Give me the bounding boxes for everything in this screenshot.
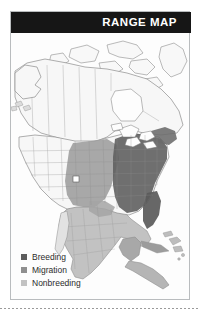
- map-legend: Breeding Migration Nonbreeding: [21, 251, 81, 290]
- legend-item-breeding[interactable]: Breeding: [21, 251, 81, 263]
- map-reference-marker: [73, 176, 79, 182]
- range-map-image[interactable]: Breeding Migration Nonbreeding: [11, 33, 189, 299]
- legend-label-migration: Migration: [32, 264, 67, 276]
- bottom-divider: [0, 308, 199, 309]
- range-map-card: RANGE MAP: [10, 11, 190, 300]
- legend-item-nonbreeding[interactable]: Nonbreeding: [21, 277, 81, 289]
- legend-item-migration[interactable]: Migration: [21, 264, 81, 276]
- legend-swatch-nonbreeding: [21, 280, 27, 286]
- legend-swatch-migration: [21, 267, 27, 273]
- legend-label-breeding: Breeding: [32, 251, 66, 263]
- page-title: RANGE MAP: [102, 12, 177, 33]
- region-alaska: [15, 65, 41, 99]
- legend-swatch-breeding: [21, 254, 27, 260]
- legend-label-nonbreeding: Nonbreeding: [32, 277, 81, 289]
- title-bar: RANGE MAP: [11, 12, 191, 33]
